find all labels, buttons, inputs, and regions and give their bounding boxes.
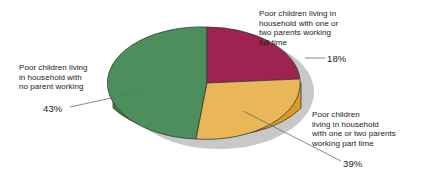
callout-percent-no-parent: 43% [43,104,62,114]
callout-label-full-time: Poor children living in household with o… [259,9,433,47]
callout-label-part-time: Poor children living in household with o… [312,110,433,148]
pie-chart-figure: Poor children living in household with o… [0,0,433,184]
callout-percent-part-time: 39% [343,159,362,169]
callout-label-no-parent: Poor children living in household with n… [19,63,169,92]
callout-percent-full-time: 18% [327,54,346,64]
